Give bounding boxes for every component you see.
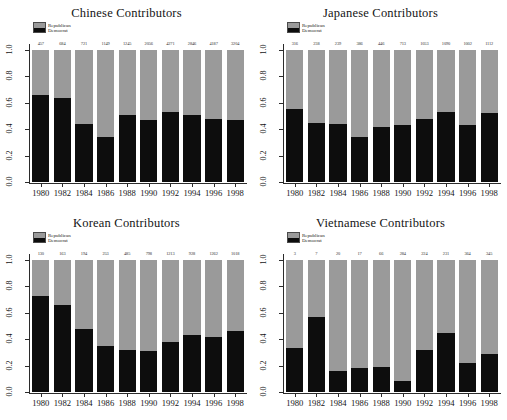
- y-axis-tick-label: 0.2: [259, 142, 268, 168]
- bar-count-label: 4187: [209, 41, 217, 46]
- y-axis-tick-label: 0.0: [5, 169, 14, 195]
- stacked-bar: 163: [54, 260, 71, 392]
- y-axis-tick: [279, 286, 283, 287]
- stacked-bar: 798: [140, 260, 157, 392]
- bar-count-label: 1090: [442, 41, 450, 46]
- x-axis-tick: [214, 184, 215, 187]
- stacked-bar: 224: [416, 260, 433, 392]
- legend-label-group: Republican Democrat: [48, 22, 71, 33]
- x-axis-tick-label: 1994: [183, 398, 200, 408]
- y-axis-tick: [279, 103, 283, 104]
- bar-segment-democrat: [140, 120, 157, 182]
- stacked-bar: 2846: [183, 50, 200, 182]
- bar-segment-democrat: [75, 329, 92, 392]
- bar-segment-democrat: [351, 368, 368, 392]
- x-axis-tick-label: 1990: [140, 188, 157, 198]
- bar-segment-democrat: [54, 98, 71, 182]
- bar-segment-democrat: [75, 124, 92, 182]
- x-axis-tick: [62, 394, 63, 397]
- x-axis-tick-label: 1986: [351, 188, 368, 198]
- x-axis-tick: [149, 184, 150, 187]
- bar-count-label: 1213: [166, 251, 174, 256]
- x-axis-tick-label: 1982: [308, 188, 325, 198]
- y-axis-tick-label: 1.0: [259, 37, 268, 63]
- legend-swatch-democrat: [34, 238, 45, 243]
- stacked-bar: 386: [351, 50, 368, 182]
- y-axis-tick-label: 0.6: [259, 299, 268, 325]
- bar-segment-democrat: [162, 342, 179, 392]
- x-axis-tick-label: 1996: [205, 398, 222, 408]
- bar-count-label: 1002: [463, 41, 471, 46]
- x-axis-tick: [41, 184, 42, 187]
- x-axis-tick-label: 1994: [183, 188, 200, 198]
- stacked-bar: 66: [373, 260, 390, 392]
- x-axis-tick: [295, 394, 296, 397]
- panel-japanese: Japanese Contributors 316238239386446713…: [254, 0, 507, 210]
- stacked-bar: 928: [183, 260, 200, 392]
- bar-segment-democrat: [437, 333, 454, 392]
- bar-count-label: 928: [189, 251, 195, 256]
- legend-swatch-group: [287, 22, 300, 33]
- stacked-bar: 684: [54, 50, 71, 182]
- y-axis-tick: [25, 129, 29, 130]
- bar-count-label: 1112: [485, 41, 493, 46]
- bar-segment-democrat: [162, 112, 179, 182]
- stacked-bar: 3204: [227, 50, 244, 182]
- y-axis-tick-label: 0.0: [259, 169, 268, 195]
- bar-count-label: 231: [443, 251, 449, 256]
- stacked-bar: 3: [286, 260, 303, 392]
- y-axis-tick-label: 0.8: [259, 273, 268, 299]
- bar-segment-democrat: [373, 367, 390, 392]
- stacked-bar: 345: [481, 260, 498, 392]
- stacked-bar: 1262: [205, 260, 222, 392]
- bar-segment-democrat: [32, 296, 49, 392]
- y-axis-tick-label: 0.0: [259, 379, 268, 405]
- stacked-bar: 1002: [459, 50, 476, 182]
- y-axis-tick-label: 0.6: [5, 299, 14, 325]
- plot-area: 4576847211149124520564271284641873204: [30, 50, 246, 182]
- bar-count-label: 7: [315, 251, 317, 256]
- x-axis-tick-label: 1984: [75, 188, 92, 198]
- x-axis-tick-label: 1988: [373, 188, 390, 198]
- x-axis-tick-label: 1984: [329, 398, 346, 408]
- bar-count-label: 721: [81, 41, 87, 46]
- stacked-bar: 316: [286, 50, 303, 182]
- stacked-bar: 17: [351, 260, 368, 392]
- y-axis-tick-label: 0.6: [5, 89, 14, 115]
- y-axis-tick: [25, 286, 29, 287]
- bar-count-label: 17: [357, 251, 361, 256]
- y-axis-tick: [25, 103, 29, 104]
- stacked-bar: 1213: [162, 260, 179, 392]
- bar-count-label: 238: [313, 41, 319, 46]
- x-axis-tick: [468, 394, 469, 397]
- figure-caption: [0, 410, 507, 420]
- stacked-bar: 721: [75, 50, 92, 182]
- y-axis-tick: [279, 313, 283, 314]
- bar-count-label: 2846: [188, 41, 196, 46]
- x-axis-tick-label: 1988: [373, 398, 390, 408]
- x-axis-tick-label: 1994: [437, 398, 454, 408]
- bar-count-label: 684: [59, 41, 65, 46]
- y-axis-tick: [279, 392, 283, 393]
- bar-segment-democrat: [459, 363, 476, 392]
- bar-segment-democrat: [140, 351, 157, 392]
- legend-swatch-group: [33, 22, 46, 33]
- x-axis-tick: [338, 394, 339, 397]
- bar-segment-democrat: [286, 109, 303, 182]
- y-axis-tick: [279, 50, 283, 51]
- y-axis-tick-label: 1.0: [5, 247, 14, 273]
- y-axis-tick: [279, 156, 283, 157]
- x-axis-tick-label: 1996: [459, 398, 476, 408]
- x-axis-tick-label: 1982: [308, 398, 325, 408]
- panel-title: Vietnamese Contributors: [254, 216, 507, 231]
- stacked-bar: 20: [329, 260, 346, 392]
- x-axis-tick: [446, 184, 447, 187]
- bar-segment-democrat: [308, 317, 325, 392]
- bar-count-label: 1053: [420, 41, 428, 46]
- stacked-bar: 284: [394, 260, 411, 392]
- stacked-bar: 713: [394, 50, 411, 182]
- x-axis-tick: [214, 394, 215, 397]
- x-axis-tick-label: 1992: [162, 188, 179, 198]
- bar-count-label: 1149: [101, 41, 109, 46]
- bar-segment-democrat: [286, 348, 303, 392]
